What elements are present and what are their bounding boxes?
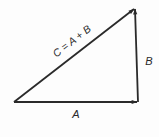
vector-c — [14, 9, 134, 102]
vector-b-arrow — [135, 9, 138, 102]
vector-triangle-svg: A B C = A + B — [0, 0, 159, 137]
vector-b — [135, 9, 138, 102]
vector-c-arrow — [14, 9, 134, 102]
vector-diagram: A B C = A + B — [0, 0, 159, 137]
label-vector-c: C = A + B — [50, 22, 93, 59]
label-vector-a: A — [71, 108, 79, 120]
label-vector-b: B — [145, 55, 152, 67]
